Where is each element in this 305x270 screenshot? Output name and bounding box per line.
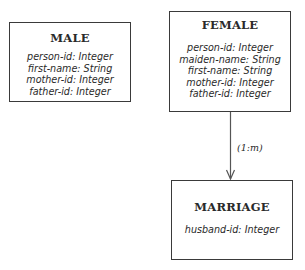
attribute: father-id: Integer bbox=[170, 88, 290, 100]
attribute: first-name: String bbox=[170, 65, 290, 77]
attribute: maiden-name: String bbox=[170, 54, 290, 66]
entity-female: FEMALE person-id: Integer maiden-name: S… bbox=[169, 11, 291, 112]
attribute: mother-id: Integer bbox=[170, 77, 290, 89]
attribute: mother-id: Integer bbox=[10, 74, 130, 86]
attribute: person-id: Integer bbox=[10, 51, 130, 63]
entity-title: FEMALE bbox=[170, 18, 290, 32]
entity-title: MARRIAGE bbox=[172, 200, 292, 214]
attribute-list: person-id: Integer first-name: String mo… bbox=[10, 51, 130, 97]
entity-title: MALE bbox=[10, 31, 130, 45]
attribute-list: person-id: Integer maiden-name: String f… bbox=[170, 42, 290, 100]
attribute: person-id: Integer bbox=[170, 42, 290, 54]
attribute: first-name: String bbox=[10, 63, 130, 75]
entity-marriage: MARRIAGE husband-id: Integer bbox=[171, 180, 293, 260]
attribute: father-id: Integer bbox=[10, 86, 130, 98]
relationship-cardinality-label: (1:m) bbox=[237, 142, 263, 154]
attribute: husband-id: Integer bbox=[172, 224, 292, 236]
arrowhead-icon bbox=[227, 170, 235, 179]
entity-male: MALE person-id: Integer first-name: Stri… bbox=[9, 22, 131, 102]
attribute-list: husband-id: Integer bbox=[172, 224, 292, 236]
